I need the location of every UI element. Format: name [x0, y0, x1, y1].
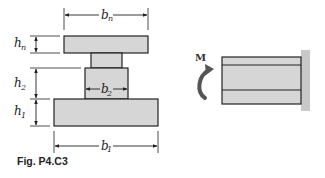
figure-caption: Fig. P4.C3 — [17, 155, 68, 167]
cantilever-beam — [222, 50, 310, 111]
bottom-block — [54, 99, 158, 126]
moment-arrow: M — [195, 52, 214, 98]
beam-body — [222, 57, 301, 104]
svg-text:1: 1 — [21, 111, 26, 120]
svg-text:2: 2 — [106, 89, 112, 98]
curved-arrow-icon — [199, 70, 209, 98]
figure-canvas: b n b 2 b 1 h n h 2 h 1 Fi — [0, 0, 325, 178]
neck-segment — [91, 53, 122, 68]
moment-label: M — [195, 52, 206, 63]
dimension-bn: b n — [64, 8, 148, 30]
svg-text:n: n — [21, 43, 26, 52]
svg-text:n: n — [108, 14, 113, 23]
fixed-wall — [301, 50, 310, 111]
top-flange — [64, 36, 148, 53]
dimension-b1: b 1 — [54, 131, 158, 154]
svg-text:2: 2 — [20, 83, 26, 92]
cross-section — [54, 36, 158, 126]
svg-text:1: 1 — [107, 145, 112, 154]
